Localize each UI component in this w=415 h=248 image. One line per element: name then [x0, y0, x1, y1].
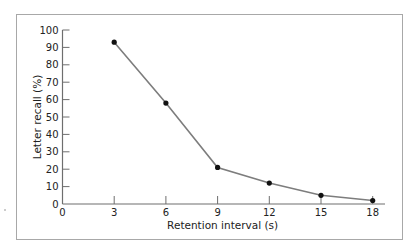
y-axis-title: Letter recall (%) — [31, 75, 43, 160]
x-tick-label: 15 — [315, 207, 328, 218]
x-axis-title: Retention interval (s) — [167, 219, 278, 231]
x-tick-label: 12 — [263, 207, 276, 218]
y-tick-label: 10 — [46, 181, 59, 192]
y-tick-label: 20 — [46, 164, 59, 175]
x-tick-label: 6 — [163, 207, 169, 218]
data-point — [163, 100, 168, 105]
y-tick-label: 0 — [52, 199, 58, 210]
data-point — [318, 193, 323, 198]
x-ticks: 0369121518 — [59, 196, 379, 218]
axes — [63, 30, 386, 204]
chart: 0102030405060708090100 0369121518 Retent… — [0, 0, 415, 248]
x-tick-label: 3 — [111, 207, 117, 218]
stray-mark — [4, 209, 6, 211]
data-point — [267, 181, 272, 186]
y-tick-label: 100 — [39, 25, 58, 36]
x-tick-label: 9 — [214, 207, 220, 218]
series-line — [114, 42, 373, 200]
y-tick-label: 60 — [46, 94, 59, 105]
data-point — [215, 165, 220, 170]
data-point — [370, 198, 375, 203]
y-tick-label: 30 — [46, 146, 59, 157]
y-ticks: 0102030405060708090100 — [39, 25, 69, 210]
y-tick-label: 80 — [46, 59, 59, 70]
data-point — [112, 40, 117, 45]
series — [112, 40, 376, 204]
x-tick-label: 0 — [59, 207, 65, 218]
y-tick-label: 90 — [46, 42, 59, 53]
y-tick-label: 40 — [46, 129, 59, 140]
y-tick-label: 70 — [46, 77, 59, 88]
y-tick-label: 50 — [46, 112, 59, 123]
x-tick-label: 18 — [366, 207, 379, 218]
